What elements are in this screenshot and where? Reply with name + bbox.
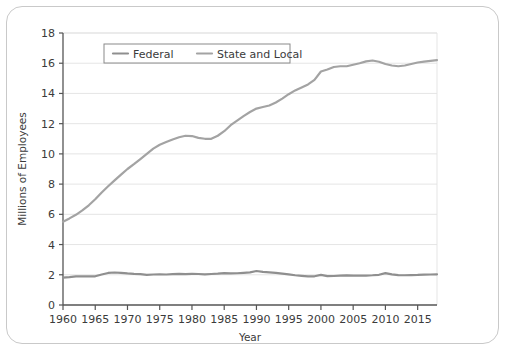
x-tick-label: 1980 [178, 313, 206, 326]
y-axis-title: Millions of Employees [16, 112, 28, 226]
x-tick-label: 1990 [242, 313, 270, 326]
y-tick-label: 0 [48, 299, 55, 312]
x-axis-title: Year [238, 331, 262, 343]
x-tick-label: 2010 [371, 313, 399, 326]
x-tick-label: 1995 [275, 313, 303, 326]
x-tick-label: 2005 [339, 313, 367, 326]
y-tick-label: 18 [41, 27, 55, 40]
y-tick-label: 16 [41, 57, 55, 70]
chart-svg: 0246810121416181960196519701975198019851… [0, 0, 506, 351]
x-tick-label: 1975 [146, 313, 174, 326]
x-tick-label: 2000 [307, 313, 335, 326]
y-tick-label: 10 [41, 148, 55, 161]
line-chart: 0246810121416181960196519701975198019851… [0, 0, 506, 351]
x-tick-label: 1970 [113, 313, 141, 326]
plot-background [63, 33, 437, 305]
y-tick-label: 6 [48, 208, 55, 221]
x-tick-label: 1985 [210, 313, 238, 326]
y-tick-label: 2 [48, 269, 55, 282]
y-tick-label: 14 [41, 87, 55, 100]
x-tick-label: 1965 [81, 313, 109, 326]
y-tick-label: 8 [48, 178, 55, 191]
y-tick-label: 12 [41, 118, 55, 131]
figure-container: 0246810121416181960196519701975198019851… [0, 0, 506, 351]
x-tick-label: 1960 [49, 313, 77, 326]
legend-label-federal: Federal [133, 48, 174, 61]
y-tick-label: 4 [48, 239, 55, 252]
x-tick-label: 2015 [404, 313, 432, 326]
legend-label-state-and-local: State and Local [217, 48, 302, 61]
